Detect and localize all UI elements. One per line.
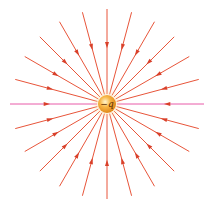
field-line [116,109,190,152]
arrow-icon [121,43,125,50]
arrow-icon [105,42,109,48]
field-line [60,113,103,187]
arrow-icon [74,49,79,56]
arrow-icon [52,71,59,76]
arrow-icon [89,43,93,50]
field-line [25,109,99,152]
arrow-icon [155,71,162,76]
arrow-icon [52,132,59,137]
field-line [116,57,190,100]
charge-label: −q [97,97,117,111]
arrow-icon [89,158,93,165]
field-line [60,22,103,96]
arrow-icon [46,118,53,122]
arrow-icon [161,118,168,122]
arrow-icon [135,49,140,56]
field-line [112,22,155,96]
arrow-icon [105,160,109,166]
arrow-icon [46,86,53,90]
arrow-icon [135,152,140,159]
arrow-icon [161,86,168,90]
arrow-icon [121,158,125,165]
arrow-icon [74,152,79,159]
arrow-icon [164,102,170,106]
arrow-icon [44,102,50,106]
field-line [25,57,99,100]
field-line [112,113,155,187]
arrow-icon [155,132,162,137]
